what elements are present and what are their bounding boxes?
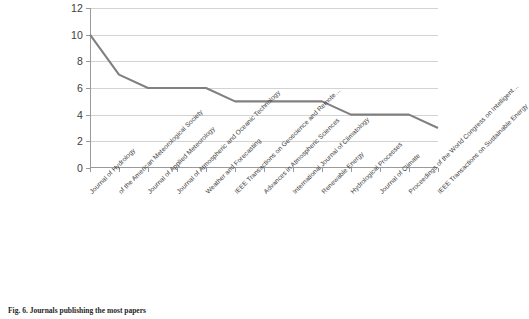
y-tick-label: 0: [77, 162, 83, 174]
data-series-line: [90, 8, 438, 168]
y-tick-label: 8: [77, 55, 83, 67]
y-tick-label: 12: [71, 2, 83, 14]
y-tick-label: 2: [77, 135, 83, 147]
y-tick-label: 4: [77, 109, 83, 121]
y-tick-label: 6: [77, 82, 83, 94]
y-axis-labels: 024681012: [55, 8, 83, 168]
figure-caption: Fig. 6. Journals publishing the most pap…: [8, 306, 146, 315]
y-tick-label: 10: [71, 29, 83, 41]
x-axis-labels: Journal of Hydrologyof the American Mete…: [0, 188, 453, 298]
x-tick-mark: [90, 168, 91, 172]
plot-area: [90, 8, 438, 168]
